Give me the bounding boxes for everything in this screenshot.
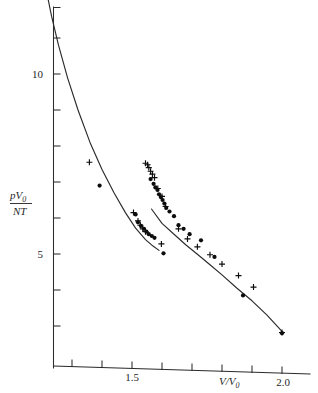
curve-fitted-curve-lower (152, 209, 283, 331)
y-axis-ticks (54, 38, 61, 326)
data-point-dot (134, 212, 138, 216)
data-point-plus (158, 241, 164, 247)
x-axis-line (54, 366, 311, 374)
data-point-dot (199, 238, 203, 242)
data-point-plus (86, 159, 92, 165)
curve-fitted-curve-upper (47, 0, 160, 250)
y-tick-label-5: 5 (38, 248, 44, 260)
y-tick-label-10: 10 (32, 68, 44, 80)
data-point-dot (280, 331, 284, 335)
data-layer (45, 0, 285, 335)
data-point-dot (172, 214, 176, 218)
x-tick-label-2-0: 2.0 (276, 376, 290, 388)
data-point-dot (167, 209, 171, 213)
data-point-plus (251, 284, 257, 290)
data-point-dot (152, 182, 156, 186)
data-point-plus (219, 261, 225, 267)
data-point-dot (182, 227, 186, 231)
y-axis-label: pV0 NT (9, 189, 32, 217)
data-point-dot (136, 220, 140, 224)
data-point-plus (185, 236, 191, 242)
figure-container: 10 5 pV0 NT (0, 0, 318, 393)
data-point-dot (164, 206, 168, 210)
data-point-plus (194, 244, 200, 250)
data-point-dot (152, 236, 156, 240)
data-point-plus (236, 273, 242, 279)
x-axis-group: 1.5 2.0 V/V0 (54, 360, 311, 390)
data-point-dot (188, 232, 192, 236)
data-point-dot (162, 202, 166, 206)
y-axis-label-numerator: pV0 (9, 189, 26, 204)
data-point-plus (207, 252, 213, 258)
x-tick-label-1-5: 1.5 (125, 371, 139, 383)
data-point-dot (161, 198, 165, 202)
data-point-dot (212, 255, 216, 259)
data-point-dot (149, 177, 153, 181)
scatter-plot: 10 5 pV0 NT (0, 0, 318, 393)
data-point-dot (241, 293, 245, 297)
data-point-dot (98, 184, 102, 188)
data-point-dot (161, 251, 165, 255)
y-axis-label-denominator: NT (12, 205, 27, 217)
x-axis-label: V/V0 (219, 375, 240, 390)
data-point-dot (155, 188, 159, 192)
y-axis-group: 10 5 (32, 7, 61, 368)
data-point-dot (176, 223, 180, 227)
